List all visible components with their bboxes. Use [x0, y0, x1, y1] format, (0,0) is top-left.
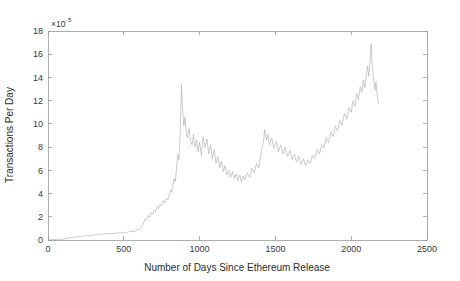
y-tick-label: 12 — [33, 96, 43, 106]
x-tick-label: 500 — [116, 244, 131, 254]
figure-container: 05001000150020002500 024681012141618 Num… — [0, 0, 460, 281]
y-axis-exponent-multiplier: ×10 5 — [51, 17, 72, 29]
y-tick-label: 10 — [33, 119, 43, 129]
x-tick-label: 1000 — [190, 244, 210, 254]
x-axis-title: Number of Days Since Ethereum Release — [144, 262, 330, 273]
x-tick-label: 2000 — [341, 244, 361, 254]
y-axis-title: Transactions Per Day — [4, 87, 15, 183]
y-tick-label: 0 — [38, 235, 43, 245]
exponent-base-label: ×10 — [51, 19, 66, 29]
x-tick-label: 0 — [45, 244, 50, 254]
y-tick-label: 6 — [38, 166, 43, 176]
y-tick-label: 16 — [33, 49, 43, 59]
x-tick-label: 1500 — [265, 244, 285, 254]
transactions-per-day-chart: 05001000150020002500 024681012141618 Num… — [0, 0, 460, 281]
y-tick-label: 18 — [33, 26, 43, 36]
exponent-power-label: 5 — [68, 17, 72, 23]
y-tick-label: 14 — [33, 73, 43, 83]
x-tick-label: 2500 — [417, 244, 437, 254]
y-tick-label: 8 — [38, 142, 43, 152]
y-tick-label: 2 — [38, 212, 43, 222]
y-tick-label: 4 — [38, 189, 43, 199]
